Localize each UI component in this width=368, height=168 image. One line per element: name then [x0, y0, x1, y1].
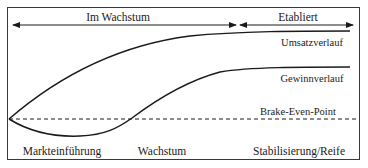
phase-arrow-growth: Im Wachstum: [13, 11, 236, 25]
phase-label-maturity: Stabilisierung/Reife: [253, 145, 345, 158]
phase-label-market-introduction: Markteinführung: [23, 145, 102, 158]
break-even-label: Brake-Even-Point: [260, 106, 336, 117]
phase-label-established: Etabliert: [278, 11, 318, 23]
phase-arrow-established: Etabliert: [240, 11, 353, 25]
revenue-curve-label: Umsatzverlauf: [281, 37, 343, 48]
profit-curve-label: Gewinnverlauf: [281, 73, 344, 84]
phase-label-growth-bottom: Wachstum: [138, 145, 186, 157]
product-lifecycle-diagram: Im Wachstum Etabliert Brake-Even-Point U…: [0, 0, 368, 168]
phase-label-growth: Im Wachstum: [86, 11, 150, 23]
